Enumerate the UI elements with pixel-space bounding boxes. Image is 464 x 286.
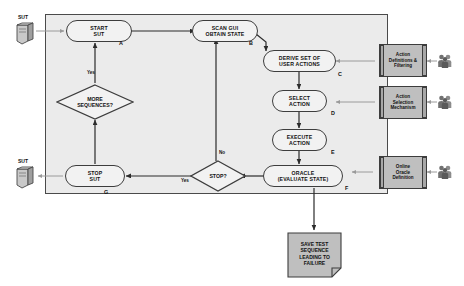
node-derive-user-actions[interactable]: DERIVE SET OF USER ACTIONS [263, 50, 336, 72]
node-tag-c: C [338, 71, 342, 77]
server-icon [8, 22, 38, 46]
node-execute-action[interactable]: EXECUTE ACTION [272, 129, 327, 151]
server-icon [8, 166, 38, 190]
node-tag-g: G [104, 189, 108, 195]
component-line: Filtering [389, 63, 417, 69]
node-line: SUT [90, 176, 101, 182]
edge-label-yes-more-sequences: Yes [87, 70, 95, 75]
sut-bottom[interactable]: SUT [8, 158, 38, 190]
node-tag-e: E [331, 149, 335, 155]
node-line: ACTION [289, 140, 310, 146]
edge-label-yes-stop: Yes [181, 178, 189, 183]
node-line: OBTAIN STATE [206, 31, 245, 37]
people-icon-action-selection [437, 94, 453, 110]
people-icon-online-oracle [437, 164, 453, 180]
sut-top[interactable]: SUT [8, 14, 38, 46]
node-line: SUT [94, 31, 105, 37]
sut-label: SUT [8, 14, 38, 20]
component-line: Definition [392, 175, 413, 181]
people-icon-action-definitions [437, 53, 453, 69]
node-tag-b: B [249, 40, 253, 46]
node-tag-f: F [345, 185, 348, 191]
decision-more-sequences[interactable]: MORE SEQUENCES? [56, 84, 134, 120]
component-action-definitions[interactable]: Action Definitions & Filtering [379, 44, 427, 77]
sut-label: SUT [8, 158, 38, 164]
node-scan-gui[interactable]: SCAN GUI OBTAIN STATE [192, 20, 258, 42]
decision-stop[interactable]: STOP? [190, 160, 246, 192]
node-tag-d: D [331, 110, 335, 116]
node-stop-sut[interactable]: STOP SUT [65, 165, 125, 187]
node-line: USER ACTIONS [279, 61, 320, 67]
component-action-selection[interactable]: Action Selection Mechanism [379, 86, 427, 119]
node-oracle[interactable]: ORACLE (EVALUATE STATE) [263, 165, 343, 187]
flowchart-canvas: START SUT A SCAN GUI OBTAIN STATE B DERI… [0, 0, 464, 286]
edge-label-no-stop: No [219, 150, 225, 155]
node-select-action[interactable]: SELECT ACTION [272, 90, 327, 112]
component-line: Mechanism [390, 105, 415, 111]
node-line: ACTION [289, 101, 310, 107]
document-save-test-sequence[interactable]: SAVE TEST SEQUENCE LEADING TO FAILURE [287, 232, 342, 278]
component-online-oracle[interactable]: Online Oracle Definition [379, 156, 427, 189]
node-line: (EVALUATE STATE) [278, 176, 329, 182]
node-start-sut[interactable]: START SUT [66, 20, 132, 42]
node-tag-a: A [119, 40, 123, 46]
